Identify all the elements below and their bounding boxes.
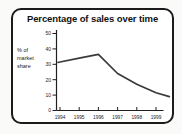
- x-tick-label: 1996: [93, 115, 104, 120]
- x-tick-label: 1994: [55, 115, 66, 120]
- market-share-line: [58, 54, 169, 96]
- y-tick-label: 30: [45, 61, 51, 67]
- x-tick-label: 1999: [151, 115, 162, 120]
- x-tick-label: 1995: [74, 115, 85, 120]
- x-tick-label: 1997: [112, 115, 123, 120]
- x-tick-label: 1998: [131, 115, 142, 120]
- y-tick-label: 10: [45, 92, 51, 98]
- y-tick-label: 0: [48, 107, 51, 113]
- y-tick-label: 20: [45, 77, 51, 83]
- y-axis-title-line: % of: [17, 47, 28, 53]
- y-axis-title-line: share: [17, 63, 31, 69]
- line-chart-plot: 01020304050199419951996199719981999% ofm…: [0, 0, 182, 134]
- y-axis-title-line: market: [17, 55, 34, 61]
- y-tick-label: 50: [45, 30, 51, 36]
- y-tick-label: 40: [45, 46, 51, 52]
- slide-background: Percentage of sales over time 0102030405…: [0, 0, 182, 134]
